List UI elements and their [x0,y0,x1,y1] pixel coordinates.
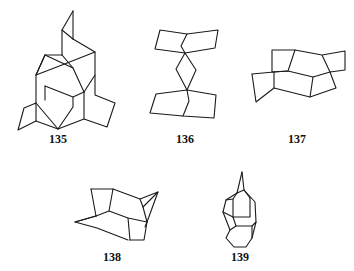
compound-label-137: 137 [288,133,306,145]
structure-139 [223,172,256,247]
compound-label-136: 136 [176,133,194,145]
compound-label-135: 135 [49,133,67,145]
structure-135 [18,11,115,130]
compound-label-138: 138 [103,251,121,263]
compound-label-139: 139 [231,251,249,263]
structure-138 [75,189,158,240]
structure-137 [252,50,345,102]
structure-136 [150,30,218,118]
